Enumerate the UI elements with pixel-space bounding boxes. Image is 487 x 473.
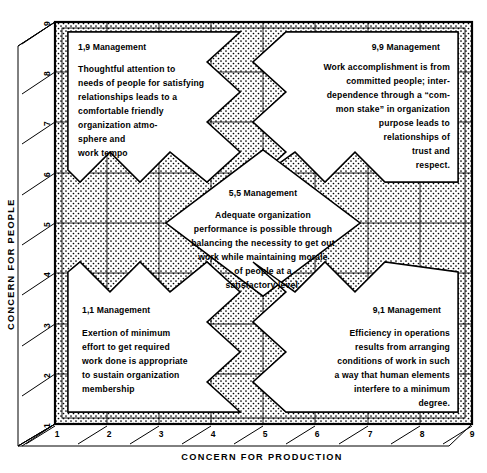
region-5-5-line-1: performance is possible through — [194, 224, 332, 234]
y-tick-2: 2 — [42, 373, 52, 378]
region-5-5-line-4: of people at a — [234, 266, 292, 276]
x-tick-8: 8 — [420, 429, 425, 439]
region-1-9-line-1: needs of people for satisfying — [78, 78, 204, 88]
region-9-9-line-3: mon stake” in organization — [336, 104, 450, 114]
region-9-1-line-3: a way that human elements — [334, 370, 450, 380]
x-tick-3: 3 — [159, 429, 164, 439]
x-tick-5: 5 — [263, 429, 268, 439]
region-9-1-line-5: degree. — [418, 398, 450, 408]
y-tick-6: 6 — [42, 172, 52, 177]
y-tick-1: 1 — [42, 423, 52, 428]
y-axis-title: CONCERN FOR PEOPLE — [6, 198, 16, 330]
region-1-9-line-5: sphere and — [78, 134, 125, 144]
y-tick-9: 9 — [42, 21, 52, 26]
region-9-9-line-7: respect. — [416, 160, 450, 170]
region-9-9-line-1: committed people; inter- — [346, 76, 450, 86]
region-5-5-line-5: satisfactory level. — [226, 280, 301, 290]
region-9-9-title: 9,9 Management — [372, 42, 440, 52]
x-tick-6: 6 — [315, 429, 320, 439]
region-9-1-line-0: Efficiency in operations — [349, 328, 450, 338]
region-5-5-line-3: work while maintaining morale — [197, 252, 328, 262]
region-1-9-line-2: relationships leads to a — [78, 92, 177, 102]
y-tick-4: 4 — [42, 272, 52, 277]
region-1-1-title: 1,1 Management — [82, 305, 150, 315]
region-9-1-line-4: interfere to a minimum — [354, 384, 450, 394]
x-tick-9: 9 — [470, 429, 475, 439]
y-tick-8: 8 — [42, 71, 52, 76]
region-5-5-line-2: balancing the necessity to get out — [191, 238, 335, 248]
region-1-1-line-1: effort to get required — [82, 342, 170, 352]
region-9-1-line-2: conditions of work in such — [337, 356, 450, 366]
region-1-1-line-2: work done is appropriate — [81, 356, 188, 366]
managerial-grid-diagram: 1,9 Management Thoughtful attention to n… — [0, 0, 487, 473]
region-1-1-line-3: to sustain organization — [82, 370, 180, 380]
region-9-9-line-0: Work accomplishment is from — [323, 62, 450, 72]
region-1-9-title: 1,9 Management — [78, 42, 146, 52]
region-1-9-line-6: work tempo — [77, 148, 128, 158]
region-1-9-line-0: Thoughtful attention to — [78, 64, 175, 74]
region-9-9-line-2: dependence through a “com- — [327, 90, 450, 100]
x-tick-7: 7 — [368, 429, 373, 439]
y-tick-3: 3 — [42, 323, 52, 328]
grid-canvas: 1,9 Management Thoughtful attention to n… — [0, 0, 487, 473]
x-axis-title: CONCERN FOR PRODUCTION — [181, 452, 342, 462]
region-9-9-line-5: relationships of — [384, 132, 450, 142]
y-tick-7: 7 — [42, 121, 52, 126]
x-tick-4: 4 — [211, 429, 216, 439]
region-1-1-line-4: membership — [82, 384, 135, 394]
region-9-1-title: 9,1 Management — [373, 305, 441, 315]
region-5-5-title: 5,5 Management — [229, 188, 297, 198]
region-1-9-line-4: organization atmo- — [78, 120, 158, 130]
region-9-9-line-4: purpose leads to — [379, 118, 450, 128]
x-tick-2: 2 — [107, 429, 112, 439]
y-tick-5: 5 — [42, 222, 52, 227]
region-9-1-line-1: results from arranging — [355, 342, 450, 352]
region-5-5-line-0: Adequate organization — [215, 210, 311, 220]
region-1-9-line-3: comfortable friendly — [78, 106, 164, 116]
x-tick-1: 1 — [55, 429, 60, 439]
region-1-1-line-0: Exertion of minimum — [82, 328, 171, 338]
region-9-9-line-6: trust and — [412, 146, 450, 156]
